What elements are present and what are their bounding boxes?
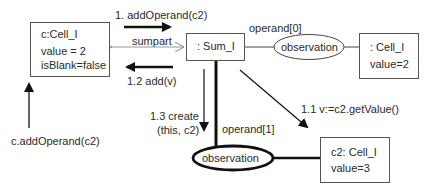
- object-c2-cell[interactable]: c2: Cell_I value=3: [320, 137, 390, 183]
- link-label-operand0: operand[0]: [249, 22, 302, 34]
- message-label-create-line2: (this, c2): [157, 124, 199, 136]
- message-label-external: c.addOperand(c2): [11, 135, 100, 147]
- message-label-add: 1.2 add(v): [127, 75, 177, 87]
- object-c-cell-value: value = 2: [41, 45, 86, 57]
- object-c2-cell-name: c2: Cell_I: [331, 146, 377, 158]
- object-c-cell-isblank: isBlank=false: [41, 59, 106, 71]
- observation-top-label: observation: [281, 41, 338, 53]
- object-cell-right[interactable]: : Cell_I value=2: [359, 33, 419, 79]
- object-sum-name: : Sum_I: [197, 40, 235, 52]
- object-cell-right-value: value=2: [370, 58, 409, 70]
- object-c-cell[interactable]: c:Cell_I value = 2 isBlank=false: [30, 22, 110, 77]
- object-c2-cell-value: value=3: [331, 162, 370, 174]
- object-cell-right-name: : Cell_I: [370, 41, 404, 53]
- object-c-cell-name: c:Cell_I: [41, 28, 78, 40]
- object-sum[interactable]: : Sum_I: [186, 33, 245, 61]
- message-label-create-line1: 1.3 create: [150, 110, 199, 122]
- link-label-sumpart: sumpart: [132, 35, 172, 47]
- observation-bottom-label: observation: [202, 152, 259, 164]
- link-label-operand1: operand[1]: [222, 123, 275, 135]
- message-arrow-getvalue: [240, 70, 307, 127]
- message-label-addoperand: 1. addOperand(c2): [115, 9, 207, 21]
- message-label-getvalue: 1.1 v:=c2.getValue(): [301, 103, 399, 115]
